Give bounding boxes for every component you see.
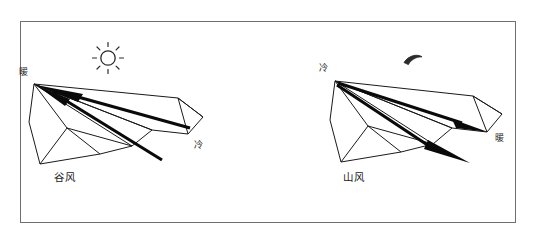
- crescent-moon-icon: [404, 55, 422, 64]
- mountain-wind-name-label: 山风: [343, 172, 365, 182]
- valley-panel-peak-temperature-label: 暖: [19, 68, 28, 77]
- mountain-wind-arrow-upper: [338, 83, 488, 132]
- figure-canvas: 暖 冷 谷风 冷 暖 山风: [0, 0, 536, 250]
- valley-panel-valley-temperature-label: 冷: [194, 141, 203, 150]
- valley-wind-name-label: 谷风: [54, 172, 76, 182]
- mountain-panel-valley-temperature-label: 暖: [495, 134, 504, 143]
- sun-icon: [93, 43, 124, 74]
- valley-wind-arrow-lower: [36, 85, 162, 160]
- mountain-wind-mountain: [330, 81, 502, 162]
- mountain-panel-peak-temperature-label: 冷: [319, 64, 328, 73]
- figure-artwork: [0, 0, 536, 250]
